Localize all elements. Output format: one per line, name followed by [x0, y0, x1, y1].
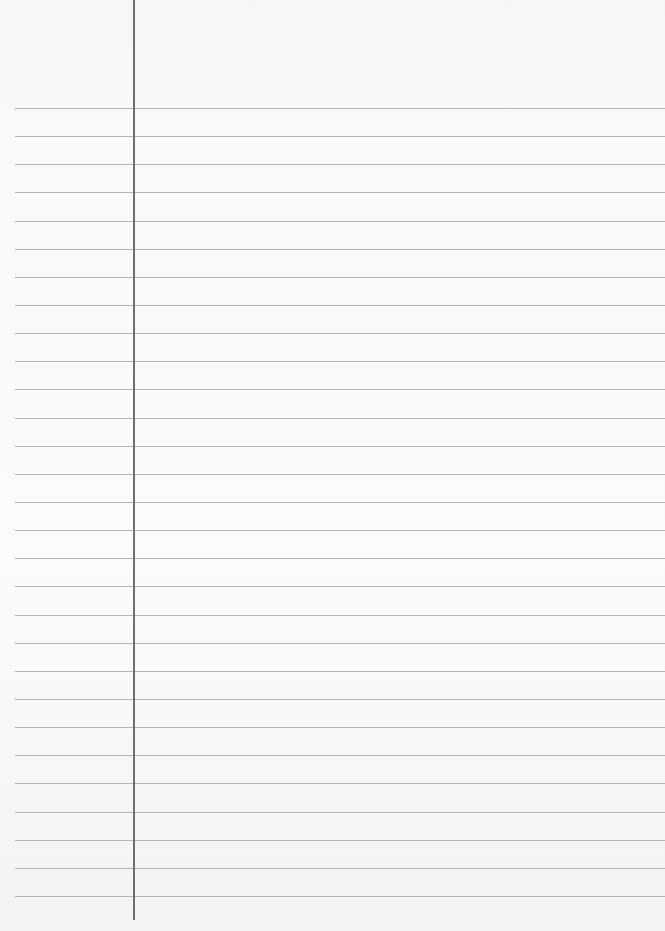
rule-line — [15, 502, 665, 503]
rule-line — [15, 361, 665, 362]
rule-line — [15, 699, 665, 700]
rule-line — [15, 558, 665, 559]
rule-line — [15, 277, 665, 278]
lined-paper — [0, 0, 665, 931]
rule-line — [15, 586, 665, 587]
rule-line — [15, 418, 665, 419]
rule-line — [15, 333, 665, 334]
rule-line — [15, 164, 665, 165]
rule-line — [15, 474, 665, 475]
rule-line — [15, 896, 665, 897]
rule-line — [15, 868, 665, 869]
rule-line — [15, 783, 665, 784]
margin-line — [133, 0, 135, 920]
rule-line — [15, 249, 665, 250]
rule-line — [15, 192, 665, 193]
rule-line — [15, 643, 665, 644]
rule-line — [15, 840, 665, 841]
rule-line — [15, 615, 665, 616]
rule-line — [15, 812, 665, 813]
rule-line — [15, 755, 665, 756]
rule-line — [15, 671, 665, 672]
rule-line — [15, 446, 665, 447]
rule-line — [15, 305, 665, 306]
rule-line — [15, 530, 665, 531]
rule-line — [15, 221, 665, 222]
rule-line — [15, 727, 665, 728]
rule-line — [15, 108, 665, 109]
rule-line — [15, 136, 665, 137]
rule-line — [15, 389, 665, 390]
